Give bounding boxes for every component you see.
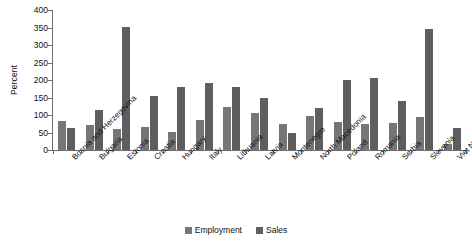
bar-group xyxy=(438,10,466,150)
bar-group xyxy=(136,10,164,150)
y-axis-tick-label: 100 xyxy=(34,111,48,120)
plot-area: 400350300250200150100500 xyxy=(0,0,472,160)
y-axis-tick-label: 150 xyxy=(34,93,48,102)
bar-employment xyxy=(223,107,231,150)
x-axis-tick-label: Lithuania xyxy=(236,156,242,162)
x-axis-tick-label: Viet Nam xyxy=(456,156,462,162)
bar-sales xyxy=(177,87,185,150)
x-axis-tick-label: Poland xyxy=(346,156,352,162)
bar-sales xyxy=(232,87,240,150)
bar-employment xyxy=(58,121,66,150)
bar-group xyxy=(163,10,191,150)
legend-label: Sales xyxy=(266,226,287,235)
chart-legend: EmploymentSales xyxy=(0,226,472,235)
bar-sales xyxy=(122,27,130,150)
x-axis-tick-label: Croatia xyxy=(153,156,159,162)
y-axis-tick-label: 200 xyxy=(34,76,48,85)
legend-item[interactable]: Sales xyxy=(256,226,287,235)
bars-container xyxy=(53,10,466,150)
legend-swatch-icon xyxy=(185,227,192,234)
x-axis-tick-labels: Bosnia and HerzegovinaBulgariaEstoniaCro… xyxy=(0,156,472,222)
y-axis-tick-label: 250 xyxy=(34,58,48,67)
bar-group xyxy=(411,10,439,150)
bar-group xyxy=(246,10,274,150)
x-axis-tick-label: Estonia xyxy=(126,156,132,162)
x-axis-tick-label: North Macedonia xyxy=(319,156,325,162)
x-axis-tick xyxy=(53,150,54,154)
bar-group xyxy=(356,10,384,150)
x-axis-tick-label: Romania xyxy=(374,156,380,162)
y-axis-tick-labels: 400350300250200150100500 xyxy=(22,0,48,160)
x-axis-tick-label: Bulgaria xyxy=(98,156,104,162)
x-axis-tick-label: Serbia xyxy=(401,156,407,162)
legend-swatch-icon xyxy=(256,227,263,234)
bar-chart: Percent 400350300250200150100500 Bosnia … xyxy=(0,0,472,244)
bar-group xyxy=(53,10,81,150)
bar-sales xyxy=(370,78,378,150)
x-axis-tick-label: Latvia xyxy=(264,156,270,162)
bar-group xyxy=(273,10,301,150)
bar-group xyxy=(383,10,411,150)
bar-group xyxy=(191,10,219,150)
legend-item[interactable]: Employment xyxy=(185,226,242,235)
x-axis-tick-label: Bosnia and Herzegovina xyxy=(71,156,77,162)
x-axis-tick-label: Hungary xyxy=(181,156,187,162)
x-axis-tick-label: Montenegro xyxy=(291,156,297,162)
x-axis-tick-label: Slovenia xyxy=(429,156,435,162)
bar-sales xyxy=(150,96,158,150)
bar-sales xyxy=(398,101,406,150)
y-axis-tick-label: 350 xyxy=(34,23,48,32)
x-axis-tick-label: Italy xyxy=(208,156,214,162)
y-axis-tick-label: 400 xyxy=(34,6,48,15)
legend-label: Employment xyxy=(195,226,242,235)
bar-group xyxy=(218,10,246,150)
bar-group xyxy=(108,10,136,150)
bar-sales xyxy=(67,128,75,150)
bar-sales xyxy=(288,133,296,150)
bar-sales xyxy=(425,29,433,150)
y-axis-tick-label: 300 xyxy=(34,41,48,50)
